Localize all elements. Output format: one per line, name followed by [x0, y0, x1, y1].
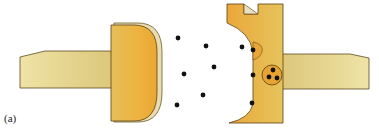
free-particles	[175, 36, 245, 108]
panel-label: (a)	[4, 112, 16, 124]
particle-dot	[182, 72, 187, 77]
left-head	[111, 25, 157, 121]
particle-dot	[204, 44, 209, 49]
notch-highlight	[244, 4, 258, 14]
particle-dot	[212, 65, 217, 70]
particle-dot	[240, 45, 245, 50]
particle-dot	[251, 48, 256, 53]
particle-dot	[250, 101, 255, 106]
left-handle	[20, 51, 113, 88]
left-electrode	[20, 23, 162, 122]
right-head	[227, 4, 283, 123]
right-handle	[281, 54, 369, 89]
cluster-dot	[267, 75, 272, 80]
particle-dot	[175, 103, 180, 108]
particle-dot	[251, 73, 256, 78]
right-electrode	[227, 4, 369, 123]
particle-dot	[176, 36, 181, 41]
particle-dot	[201, 93, 206, 98]
cluster-dot	[275, 76, 280, 81]
cluster-dot	[271, 68, 276, 73]
figure-canvas	[0, 0, 379, 137]
